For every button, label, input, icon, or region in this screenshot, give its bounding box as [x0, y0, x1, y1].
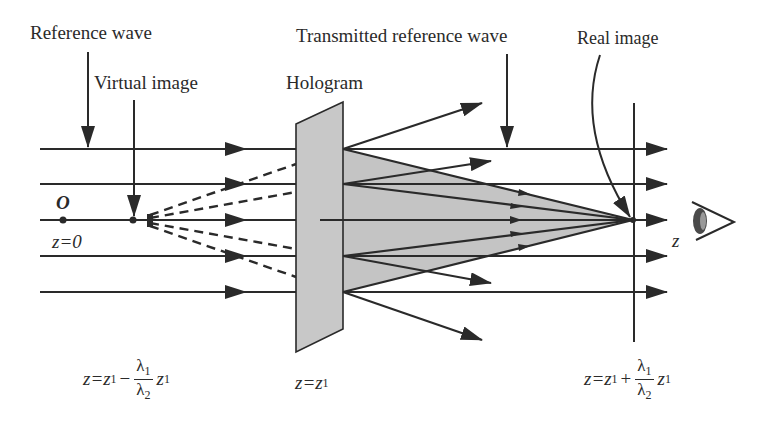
- real-image-point: [630, 217, 636, 223]
- formula-tail-sub: 1: [665, 372, 671, 387]
- real-image-label: Real image: [577, 29, 658, 47]
- formula-lhs-sub: 1: [323, 376, 329, 391]
- hologram-plate: [296, 102, 343, 352]
- origin-point: [60, 217, 67, 224]
- numerator: λ: [637, 356, 645, 375]
- formula-lhs: z=z: [295, 372, 323, 394]
- incoming-reference-beams: [40, 149, 296, 292]
- formula-operator: −: [120, 368, 131, 390]
- formula-lhs: z=z: [83, 368, 111, 390]
- denominator: λ: [637, 380, 645, 399]
- virtual-image-position-formula: z=z1 − λ1 λ2 z1: [83, 357, 170, 402]
- denominator-sub: 2: [646, 388, 652, 402]
- transmitted-reference-wave-label: Transmitted reference wave: [296, 26, 507, 45]
- formula-operator: +: [621, 368, 632, 390]
- real-image-position-formula: z=z1 + λ1 λ2 z1: [584, 357, 671, 402]
- formula-lhs-sub: 1: [111, 372, 117, 387]
- virtual-image-marker: [147, 214, 153, 227]
- hologram-label: Hologram: [286, 73, 363, 92]
- numerator-sub: 1: [646, 364, 652, 378]
- wavelength-ratio: λ1 λ2: [134, 357, 152, 402]
- denominator: λ: [136, 380, 144, 399]
- numerator: λ: [136, 356, 144, 375]
- holography-diagram: Reference wave Virtual image Hologram Tr…: [0, 0, 771, 432]
- incoming-beam-arrowheads: [225, 142, 247, 299]
- formula-tail-sub: 1: [164, 372, 170, 387]
- denominator-sub: 2: [145, 388, 151, 402]
- formula-lhs-sub: 1: [612, 372, 618, 387]
- virtual-image-label: Virtual image: [94, 73, 198, 92]
- eye-icon: [692, 202, 734, 240]
- formula-lhs: z=z: [584, 368, 612, 390]
- wavelength-ratio: λ1 λ2: [635, 357, 653, 402]
- origin-label: O: [56, 193, 70, 212]
- virtual-image-point: [130, 217, 137, 224]
- real-image-pointer: [592, 55, 630, 217]
- numerator-sub: 1: [145, 364, 151, 378]
- formula-tail: z: [157, 368, 164, 390]
- hologram-position-formula: z=z1: [295, 372, 329, 394]
- formula-tail: z: [658, 368, 665, 390]
- z-axis-label: z: [672, 231, 679, 250]
- reference-wave-label: Reference wave: [30, 23, 152, 42]
- z-zero-label: z=0: [52, 232, 82, 251]
